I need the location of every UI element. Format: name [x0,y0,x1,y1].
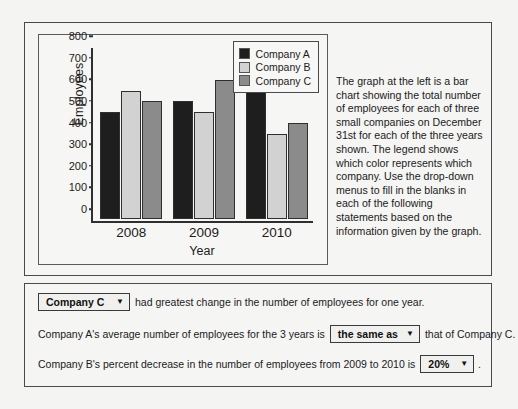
legend-item-company-c: Company C [239,75,311,87]
statement-text-2-after: that of Company C. [425,328,515,340]
legend-label-company-a: Company A [256,48,310,60]
y-tick-label: 600 [69,73,93,85]
statement-text-2-before: Company A's average number of employees … [38,328,325,340]
y-tick-label: 100 [69,181,93,193]
y-tick-label: 400 [69,117,93,129]
x-tick-label: 2010 [240,225,313,240]
statement-row-1: Company C ▼ had greatest change in the n… [38,293,481,311]
y-tick-label: 300 [69,138,93,150]
bar-company-b-2009 [194,112,214,219]
legend-swatch-icon-company-c [239,75,250,86]
bar-group [100,48,162,219]
bar-group [173,48,235,219]
x-axis-label: Year [91,244,313,258]
dropdown-statement-1[interactable]: Company C ▼ [38,293,130,311]
y-tick-label: 500 [69,95,93,107]
y-tick-label: 200 [69,160,93,172]
legend-item-company-b: Company B [239,61,311,73]
chevron-down-icon: ▼ [460,360,468,368]
chevron-down-icon: ▼ [116,298,124,306]
legend-swatch-icon-company-a [239,48,250,59]
dropdown-value-1: Company C [46,296,104,308]
bar-company-a-2008 [100,112,120,219]
statement-row-3: Company B's percent decrease in the numb… [38,355,481,373]
chart-legend: Company A Company B Company C [233,41,319,93]
x-tick-label: 2008 [95,225,168,240]
bar-chart: Employees 0100200300400500600700800 2008… [38,34,328,265]
page-root: Employees 0100200300400500600700800 2008… [0,0,518,409]
y-tick-label: 800 [69,30,93,42]
x-axis-ticks: 200820092010 [95,221,313,240]
bar-company-b-2008 [121,91,141,219]
bar-company-a-2009 [173,101,193,219]
bar-company-a-2010 [246,91,266,219]
bar-company-c-2009 [215,80,235,219]
legend-swatch-icon-company-b [239,62,250,73]
statements-panel: Company C ▼ had greatest change in the n… [24,283,492,387]
bar-company-c-2008 [142,101,162,219]
legend-item-company-a: Company A [239,48,311,60]
dropdown-value-3: 20% [428,358,449,370]
dropdown-statement-3[interactable]: 20% ▼ [420,355,474,373]
statement-text-3-before: Company B's percent decrease in the numb… [38,358,415,370]
chart-panel: Employees 0100200300400500600700800 2008… [24,22,492,276]
legend-label-company-c: Company C [256,75,311,87]
dropdown-statement-2[interactable]: the same as ▼ [330,325,420,343]
bar-company-b-2010 [267,134,287,220]
bar-company-c-2010 [288,123,308,219]
statement-text-3-after: . [478,358,481,370]
legend-label-company-b: Company B [256,61,311,73]
chevron-down-icon: ▼ [406,330,414,338]
statement-row-2: Company A's average number of employees … [38,325,481,343]
y-tick-label: 0 [81,203,93,215]
dropdown-value-2: the same as [338,328,398,340]
chart-description: The graph at the left is a bar chart sho… [336,75,486,238]
x-tick-label: 2009 [168,225,241,240]
statement-text-1-after: had greatest change in the number of emp… [135,296,425,308]
y-tick-label: 700 [69,52,93,64]
